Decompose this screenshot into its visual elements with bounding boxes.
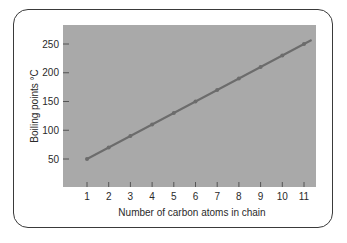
y-tick-label: 150 <box>42 96 59 107</box>
x-tick-label: 11 <box>299 191 310 202</box>
y-axis-title: Boiling points °C <box>29 69 40 142</box>
y-tick-label: 250 <box>42 39 59 50</box>
y-tick-label: 100 <box>42 125 59 136</box>
plot-area <box>63 25 316 187</box>
x-tick-label: 7 <box>214 191 220 202</box>
data-point <box>259 65 263 69</box>
data-point <box>302 42 306 46</box>
data-point <box>194 100 198 104</box>
line-chart: 50100150200250 1234567891011 Number of c… <box>0 0 347 243</box>
data-point <box>215 88 219 92</box>
data-point <box>85 157 89 161</box>
x-tick-label: 8 <box>236 191 242 202</box>
x-tick-label: 4 <box>149 191 155 202</box>
x-tick-label: 1 <box>84 191 90 202</box>
y-tick-label: 200 <box>42 67 59 78</box>
x-tick-label: 3 <box>128 191 134 202</box>
data-point <box>150 123 154 127</box>
x-tick-label: 9 <box>258 191 264 202</box>
data-point <box>172 111 176 115</box>
x-tick-label: 10 <box>277 191 289 202</box>
x-tick-label: 2 <box>106 191 112 202</box>
x-tick-label: 5 <box>171 191 177 202</box>
data-point <box>280 54 284 58</box>
x-axis-title: Number of carbon atoms in chain <box>118 207 265 218</box>
y-tick-label: 50 <box>48 154 60 165</box>
data-point <box>237 77 241 81</box>
data-point <box>128 134 132 138</box>
x-tick-label: 6 <box>193 191 199 202</box>
data-point <box>107 146 111 150</box>
